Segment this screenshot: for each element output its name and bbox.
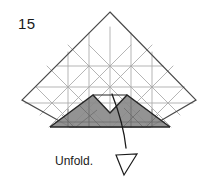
figure-caption: Unfold. — [55, 155, 93, 167]
step-number: 15 — [18, 16, 36, 31]
